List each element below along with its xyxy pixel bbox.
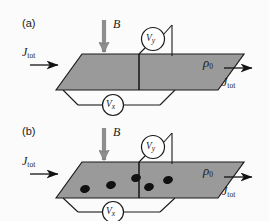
panel-a-current-in-label: Jtot: [22, 46, 35, 60]
panel-b-field-label: B: [113, 126, 120, 138]
figure-container: (a) B Jtot Jtot ρ0 Vy Vx (b) B Jtot Jtot…: [0, 0, 269, 221]
panel-a-label: (a): [22, 18, 35, 29]
panel-a-meter-vx-label: Vx: [106, 100, 115, 111]
panel-b-resistivity-sub: 0: [209, 170, 213, 179]
panel-b-current-in-sub: tot: [27, 160, 35, 169]
panel-b-graphics: [30, 128, 252, 221]
panel-a-slab: [56, 54, 244, 90]
panel-a-current-out-sub: tot: [227, 81, 235, 90]
panel-b-meter-vy-label: Vy: [146, 142, 155, 153]
panel-a-resistivity-label: ρ0: [203, 56, 213, 71]
panel-a-meter-vx-sub: x: [112, 102, 115, 111]
panel-b-current-in-label: Jtot: [22, 155, 35, 169]
panel-a-current-out-label: Jtot: [222, 76, 235, 90]
panel-a-field-label: B: [113, 18, 120, 30]
panel-b-meter-vx-label: Vx: [106, 207, 115, 218]
panel-b-meter-vy-sub: y: [152, 144, 155, 153]
panel-a-current-in-sub: tot: [27, 51, 35, 60]
panel-a-graphics: [30, 20, 252, 116]
panel-b-resistivity-label: ρ0: [203, 164, 213, 179]
panel-b-label: (b): [22, 126, 35, 137]
panel-a-resistivity-sub: 0: [209, 62, 213, 71]
panel-b-current-out-label: Jtot: [222, 185, 235, 199]
panel-a-meter-vy-label: Vy: [146, 34, 155, 45]
panel-b-meter-vx-sub: x: [112, 209, 115, 218]
panel-a-meter-vy-sub: y: [152, 36, 155, 45]
panel-b-current-out-sub: tot: [227, 190, 235, 199]
